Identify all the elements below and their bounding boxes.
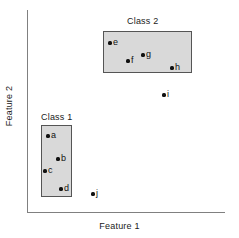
x-axis-line [27,212,225,213]
data-point-marker [162,93,165,96]
data-point-marker [108,41,111,44]
data-point-label: g [146,49,151,59]
x-axis-label: Feature 1 [0,221,239,231]
data-point-marker [91,192,94,195]
data-point-marker [170,66,173,69]
data-point-label: i [167,89,169,99]
data-point-label: h [175,62,180,72]
data-point-label: j [96,188,98,198]
data-point-marker [141,53,144,56]
data-point-label: c [48,165,53,175]
class-region-label: Class 2 [127,16,158,26]
scatter-plot-figure: Feature 2 Feature 1 Class 1Class 2 abcde… [0,0,239,238]
class-region-label: Class 1 [41,112,72,122]
data-point-label: d [64,183,69,193]
data-point-marker [59,187,62,190]
data-point-label: b [61,153,66,163]
data-point-marker [126,59,129,62]
data-point-marker [46,134,49,137]
data-point-marker [56,157,59,160]
y-axis-label: Feature 2 [4,66,14,146]
y-axis-line [27,10,28,213]
data-point-label: e [113,37,118,47]
data-point-label: a [51,130,56,140]
data-point-label: f [131,55,134,65]
data-point-marker [43,169,46,172]
